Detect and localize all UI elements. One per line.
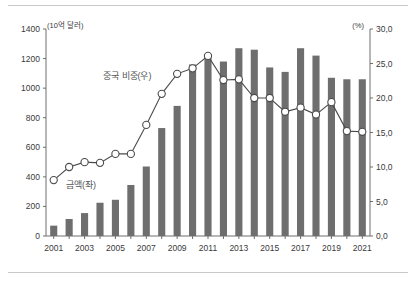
right-tick-label-15: 15,0	[376, 128, 393, 138]
bar-2008	[158, 128, 165, 236]
x-tick-label-2001: 2001	[44, 243, 63, 253]
x-tick-label-2009: 2009	[168, 243, 187, 253]
left-tick-label-1000: 1000	[21, 83, 40, 93]
bar-2005	[112, 200, 119, 236]
line-marker-2015	[266, 94, 273, 101]
bar-2009	[174, 106, 181, 236]
bar-2016	[282, 72, 289, 236]
chart-figure: 02004006008001000120014000,05,010,015,02…	[0, 0, 416, 281]
bar-2012	[220, 62, 227, 236]
line-marker-2003	[81, 159, 88, 166]
left-tick-label-600: 600	[26, 142, 40, 152]
bar-2017	[297, 48, 304, 236]
left-tick-label-1200: 1200	[21, 54, 40, 64]
line-marker-2018	[312, 111, 319, 118]
right-tick-label-20: 20,0	[376, 93, 393, 103]
line-marker-2021	[359, 128, 366, 135]
bar-2015	[266, 67, 273, 236]
bar-2020	[343, 79, 350, 236]
bar-2010	[189, 64, 196, 236]
bar-2014	[251, 50, 258, 236]
line-marker-2012	[220, 76, 227, 83]
right-tick-label-30: 30,0	[376, 24, 393, 34]
x-tick-label-2005: 2005	[106, 243, 125, 253]
right-tick-label-0: 0,0	[376, 231, 388, 241]
x-tick-label-2007: 2007	[137, 243, 156, 253]
line-marker-2011	[204, 52, 211, 59]
left-axis-unit-label: (10억 달러)	[47, 21, 84, 30]
x-tick-label-2011: 2011	[199, 243, 218, 253]
bar-2001	[50, 226, 57, 236]
x-tick-label-2013: 2013	[229, 243, 248, 253]
line-marker-2010	[189, 65, 196, 72]
combo-chart: 02004006008001000120014000,05,010,015,02…	[0, 0, 416, 281]
line-marker-2001	[50, 177, 57, 184]
bar-2004	[96, 203, 103, 236]
line-marker-2007	[143, 121, 150, 128]
line-marker-2017	[297, 104, 304, 111]
x-tick-label-2021: 2021	[353, 243, 372, 253]
line-marker-2014	[251, 94, 258, 101]
line-marker-2006	[127, 150, 134, 157]
line-marker-2008	[158, 90, 165, 97]
bar-2018	[312, 56, 319, 236]
line-marker-2013	[235, 76, 242, 83]
line-marker-2002	[66, 163, 73, 170]
right-tick-label-25: 25,0	[376, 59, 393, 69]
right-axis-unit-label: (%)	[352, 21, 364, 30]
x-tick-label-2015: 2015	[260, 243, 279, 253]
x-tick-label-2019: 2019	[322, 243, 341, 253]
bar-2021	[359, 79, 366, 236]
left-tick-label-400: 400	[26, 172, 40, 182]
right-tick-label-10: 10,0	[376, 162, 393, 172]
left-tick-label-1400: 1400	[21, 24, 40, 34]
line-series-label: 중국 비중(우)	[103, 71, 152, 81]
bar-series-label: 금액(좌)	[66, 179, 96, 190]
line-marker-2020	[343, 128, 350, 135]
bar-2006	[127, 185, 134, 236]
right-tick-label-5: 5,0	[376, 197, 388, 207]
bar-2007	[143, 167, 150, 236]
bar-2003	[81, 213, 88, 236]
bar-series-group	[50, 48, 366, 236]
left-tick-label-0: 0	[35, 231, 40, 241]
bar-2011	[204, 56, 211, 236]
line-marker-2019	[328, 99, 335, 106]
x-tick-label-2003: 2003	[75, 243, 94, 253]
left-tick-label-800: 800	[26, 113, 40, 123]
line-marker-2005	[112, 150, 119, 157]
x-tick-label-2017: 2017	[291, 243, 310, 253]
line-marker-2016	[282, 108, 289, 115]
line-marker-2009	[174, 70, 181, 77]
line-marker-2004	[96, 159, 103, 166]
left-tick-label-200: 200	[26, 201, 40, 211]
bar-2002	[66, 219, 73, 236]
